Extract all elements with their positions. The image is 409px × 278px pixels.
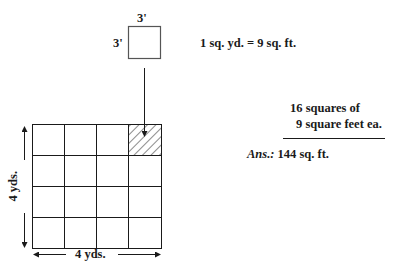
answer-value: 144 sq. ft. [278,147,329,161]
answer-line: Ans.: 144 sq. ft. [247,148,329,161]
height-label: 4 yds. [7,171,20,202]
equivalence-text: 1 sq. yd. = 9 sq. ft. [200,37,296,50]
computation-line-2: 9 square feet ea. [296,118,382,131]
computation-line-1: 16 squares of [290,102,360,115]
small-square-left-label: 3' [113,37,123,50]
small-square-top-label: 3' [137,12,147,25]
answer-prefix: Ans.: [247,147,274,161]
hatched-cell [129,125,161,156]
width-label: 4 yds. [75,248,106,261]
small-square [129,27,161,59]
